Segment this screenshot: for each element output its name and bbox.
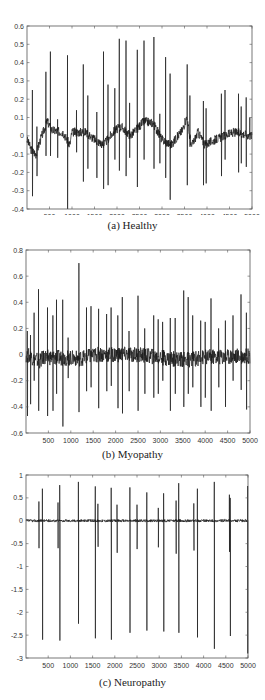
y-tick-label: 0.6: [13, 273, 23, 280]
caption-neuropathy: (c) Neuropathy: [0, 676, 265, 688]
y-tick-label: 0.4: [13, 299, 23, 306]
y-tick-label: -0.5: [11, 540, 23, 547]
y-tick-label: 0.5: [13, 494, 23, 501]
signal-trace: [26, 482, 248, 654]
y-tick-label: 0.3: [14, 77, 24, 84]
x-tick-label: 3000: [154, 213, 170, 215]
x-tick-label: 2000: [108, 437, 124, 444]
x-tick-label: 4000: [199, 213, 215, 215]
y-tick-label: 0.2: [14, 96, 24, 103]
x-tick-label: 1500: [85, 662, 101, 669]
x-tick-label: 500: [43, 437, 55, 444]
y-tick-label: 1: [19, 472, 23, 479]
y-tick-label: -3: [17, 655, 23, 662]
chart-neuropathy: 500100015002000250030003500400045005000-…: [0, 465, 265, 675]
y-tick-label: -0.1: [12, 151, 24, 158]
chart-panel-myopathy: 500100015002000250030003500400045005000-…: [0, 235, 265, 465]
x-tick-label: 1000: [63, 662, 79, 669]
x-tick-label: 2000: [109, 213, 125, 215]
x-tick-label: 4000: [197, 437, 213, 444]
x-tick-label: 3500: [177, 213, 193, 215]
x-tick-label: 1000: [63, 437, 79, 444]
y-tick-label: 0: [19, 517, 23, 524]
x-tick-label: 3000: [151, 662, 167, 669]
chart-panel-neuropathy: 500100015002000250030003500400045005000-…: [0, 465, 265, 700]
caption-myopathy: (b) Myopathy: [0, 448, 265, 460]
x-tick-label: 1000: [64, 213, 80, 215]
x-tick-label: 1500: [85, 437, 101, 444]
y-tick-label: -0.4: [12, 206, 24, 213]
y-tick-label: 0.4: [14, 59, 24, 66]
x-tick-label: 4500: [220, 437, 236, 444]
signal-trace: [27, 37, 252, 209]
y-tick-label: -0.3: [12, 187, 24, 194]
x-tick-label: 500: [44, 213, 56, 215]
x-tick-label: 5000: [242, 437, 258, 444]
y-tick-label: -2: [17, 609, 23, 616]
y-tick-label: 0.8: [13, 247, 23, 254]
y-tick-label: -0.4: [11, 403, 23, 410]
y-tick-label: -1: [17, 563, 23, 570]
x-tick-label: 500: [42, 662, 54, 669]
y-tick-label: 0.1: [14, 114, 24, 121]
y-tick-label: -1.5: [11, 586, 23, 593]
y-tick-label: -0.2: [12, 169, 24, 176]
y-tick-label: -2.5: [11, 632, 23, 639]
signal-trace: [26, 263, 250, 426]
x-tick-label: 4500: [218, 662, 234, 669]
x-tick-label: 4500: [222, 213, 238, 215]
y-tick-label: -0.6: [11, 430, 23, 437]
y-tick-label: 0: [20, 132, 24, 139]
x-tick-label: 1500: [87, 213, 103, 215]
x-tick-label: 2500: [129, 662, 145, 669]
plot-frame: [27, 26, 252, 209]
x-tick-label: 4000: [196, 662, 212, 669]
chart-panel-healthy: 500100015002000250030003500400045005000-…: [0, 0, 265, 235]
x-tick-label: 3500: [174, 662, 190, 669]
x-tick-label: 3000: [153, 437, 169, 444]
chart-healthy: 500100015002000250030003500400045005000-…: [0, 0, 265, 215]
chart-myopathy: 500100015002000250030003500400045005000-…: [0, 235, 265, 445]
x-tick-label: 5000: [244, 213, 260, 215]
y-tick-label: 0.2: [13, 325, 23, 332]
caption-healthy: (a) Healthy: [0, 219, 265, 231]
y-tick-label: 0.6: [14, 23, 24, 30]
y-tick-label: 0.5: [14, 41, 24, 48]
x-tick-label: 2500: [130, 437, 146, 444]
x-tick-label: 3500: [175, 437, 191, 444]
x-tick-label: 2500: [132, 213, 148, 215]
y-tick-label: 0: [19, 351, 23, 358]
y-tick-label: -0.2: [11, 377, 23, 384]
x-tick-label: 2000: [107, 662, 123, 669]
x-tick-label: 5000: [240, 662, 256, 669]
